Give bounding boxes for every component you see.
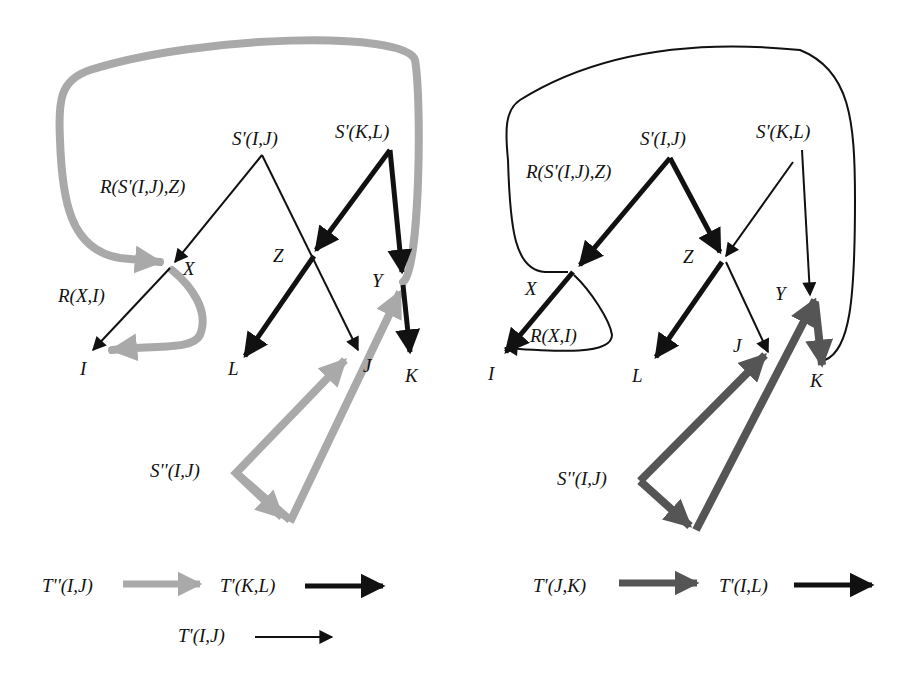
right-label-k: K: [809, 370, 824, 391]
right-edge-sij-z: [670, 158, 720, 252]
left-label-i: I: [79, 358, 88, 379]
right-edge-skl-y: [802, 150, 810, 295]
left-label-l: L: [227, 358, 239, 379]
left-legend-label-0: T''(I,J): [42, 575, 93, 597]
left-edge-skl-z: [316, 150, 390, 250]
left-label-r-sij-z: R(S'(I,J),Z): [99, 176, 185, 198]
right-label-i: I: [487, 363, 496, 384]
left-gray-to-y: [290, 292, 400, 522]
left-edge-skl-y: [390, 150, 402, 272]
right-label-skl: S'(K,L): [756, 121, 810, 143]
left-label-skl: S'(K,L): [335, 121, 389, 143]
left-legend-label-2: T'(I,J): [178, 625, 225, 647]
right-black-loop: [506, 47, 855, 360]
right-label-s2ij: S''(I,J): [557, 468, 607, 490]
right-label-y: Y: [775, 283, 788, 304]
right-label-l: L: [631, 365, 643, 386]
left-label-y: Y: [372, 270, 385, 291]
right-label-r-x-i: R(X,I): [529, 325, 577, 347]
right-label-z: Z: [683, 246, 694, 267]
left-label-sij: S'(I,J): [232, 128, 278, 150]
right-legend-label-1: T'(I,L): [719, 575, 768, 597]
left-edge-x-i: [93, 268, 170, 350]
left-gray-loop: [59, 40, 418, 282]
right-edge-skl-z: [726, 162, 793, 256]
diagram-canvas: S'(I,J) S'(K,L) R(S'(I,J),Z) X Z Y R(X,I…: [0, 0, 916, 681]
right-label-x: X: [524, 278, 538, 299]
left-label-r-x-i: R(X,I): [57, 285, 105, 307]
right-diagram: S'(I,J) S'(K,L) R(S'(I,J),Z) X Z Y R(X,I…: [487, 47, 872, 597]
left-gray-s2-apex: [236, 473, 282, 517]
left-legend-label-1: T'(K,L): [220, 575, 275, 597]
left-edge-y-k: [403, 285, 410, 352]
left-edge-z-l: [245, 256, 314, 356]
right-legend-label-0: T'(J,K): [533, 575, 586, 597]
left-label-s2ij: S''(I,J): [150, 460, 200, 482]
right-label-sij: S'(I,J): [640, 128, 686, 150]
left-edge-sij-x: [175, 155, 262, 262]
right-label-j: J: [733, 335, 743, 356]
right-label-r-sij-z: R(S'(I,J),Z): [525, 161, 611, 183]
right-dark-s2-apex: [640, 481, 690, 526]
left-diagram: S'(I,J) S'(K,L) R(S'(I,J),Z) X Z Y R(X,I…: [42, 40, 419, 647]
left-label-k: K: [404, 365, 419, 386]
right-dark-s2-to-j: [640, 355, 765, 481]
left-label-z: Z: [273, 245, 284, 266]
right-dark-to-y: [696, 300, 815, 530]
left-label-x: X: [182, 258, 196, 279]
right-dark-y-to-k: [815, 302, 822, 365]
right-edge-z-l: [656, 262, 722, 357]
